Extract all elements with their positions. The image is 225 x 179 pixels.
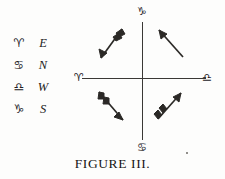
arrow-upper-left — [92, 24, 132, 66]
libra-symbol-icon: ♎ — [8, 81, 30, 93]
legend-direction-label: W — [30, 81, 56, 94]
aries-symbol-icon: ♈ — [8, 37, 30, 49]
capricorn-symbol-icon: ♑ — [8, 103, 30, 115]
legend-row: ♑ S — [8, 98, 66, 120]
arrow-upper-right — [150, 24, 192, 66]
vertical-axis-line — [142, 22, 143, 140]
legend-row: ♈ E — [8, 32, 66, 54]
figure-page: ♈ E ♋ N ♎ W ♑ S ♑ ♋ ♈ ♎ — [0, 0, 225, 179]
legend-direction-label: S — [30, 103, 56, 116]
legend-row: ♎ W — [8, 76, 66, 98]
figure-caption: FIGURE III. — [0, 156, 225, 172]
horizontal-axis-line — [82, 78, 206, 79]
legend-direction-label: E — [30, 37, 56, 50]
axis-label-top-capricorn: ♑ — [130, 6, 154, 17]
legend-row: ♋ N — [8, 54, 66, 76]
arrow-lower-right — [150, 86, 192, 130]
legend-direction-label: N — [30, 59, 56, 72]
compass-diagram: ♑ ♋ ♈ ♎ — [72, 4, 220, 152]
arrow-lower-left — [92, 86, 134, 130]
paper-speck — [186, 152, 188, 154]
legend: ♈ E ♋ N ♎ W ♑ S — [8, 32, 66, 120]
cancer-symbol-icon: ♋ — [8, 59, 30, 71]
axis-label-right-libra: ♎ — [196, 72, 218, 83]
axis-label-bottom-cancer: ♋ — [130, 142, 154, 153]
axis-label-left-aries: ♈ — [68, 72, 90, 83]
